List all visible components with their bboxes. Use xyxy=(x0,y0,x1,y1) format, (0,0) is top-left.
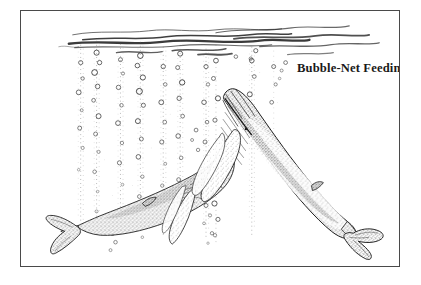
illustration-page: Bubble-Net Feeding xyxy=(0,0,421,285)
bubble-net-feeding-illustration xyxy=(21,11,399,266)
figure-frame: Bubble-Net Feeding xyxy=(20,10,400,267)
figure-title: Bubble-Net Feeding xyxy=(297,62,400,75)
